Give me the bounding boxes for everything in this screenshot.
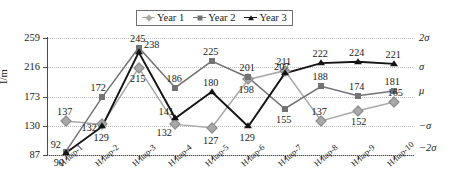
data-label: 92 bbox=[51, 140, 61, 150]
data-point[interactable] bbox=[245, 74, 251, 80]
data-point[interactable] bbox=[244, 123, 252, 129]
data-point[interactable] bbox=[317, 59, 325, 65]
data-point[interactable] bbox=[135, 49, 143, 55]
data-label: 165 bbox=[388, 88, 403, 98]
data-label: 188 bbox=[313, 72, 328, 82]
data-label: 141 bbox=[159, 107, 174, 117]
data-label: 152 bbox=[351, 117, 366, 127]
data-label: 155 bbox=[276, 115, 291, 125]
data-label: 186 bbox=[167, 74, 182, 84]
data-label: 129 bbox=[94, 133, 109, 143]
data-label: 137 bbox=[57, 107, 72, 117]
data-label: 180 bbox=[203, 78, 218, 88]
data-label: 238 bbox=[144, 40, 159, 50]
chart-figure: Year 1 Year 2 Year 3 I/m 25921617313087 … bbox=[0, 0, 465, 195]
data-point[interactable] bbox=[354, 58, 362, 64]
data-label: 221 bbox=[386, 50, 401, 60]
data-label: 127 bbox=[203, 136, 218, 146]
data-label: 172 bbox=[91, 83, 106, 93]
data-label: 174 bbox=[349, 82, 364, 92]
data-point[interactable] bbox=[99, 94, 105, 100]
data-point[interactable] bbox=[318, 83, 324, 89]
data-point[interactable] bbox=[209, 58, 215, 64]
data-label: 129 bbox=[240, 133, 255, 143]
data-label: 207 bbox=[274, 62, 289, 72]
data-label: 90 bbox=[54, 158, 64, 168]
data-point[interactable] bbox=[62, 149, 70, 155]
data-point[interactable] bbox=[98, 123, 106, 129]
data-label: 225 bbox=[203, 47, 218, 57]
data-label: 137 bbox=[312, 107, 327, 117]
data-label: 201 bbox=[240, 63, 255, 73]
series-line-year-1 bbox=[66, 68, 395, 128]
data-label: 132 bbox=[157, 128, 172, 138]
data-label: 198 bbox=[239, 85, 254, 95]
data-point[interactable] bbox=[208, 88, 216, 94]
data-point[interactable] bbox=[355, 93, 361, 99]
data-point[interactable] bbox=[282, 106, 288, 112]
data-label: 245 bbox=[130, 34, 145, 44]
data-label: 215 bbox=[130, 74, 145, 84]
data-label: 224 bbox=[349, 48, 364, 58]
data-point[interactable] bbox=[172, 85, 178, 91]
data-label: 181 bbox=[385, 77, 400, 87]
data-label: 222 bbox=[313, 49, 328, 59]
data-point[interactable] bbox=[390, 60, 398, 66]
